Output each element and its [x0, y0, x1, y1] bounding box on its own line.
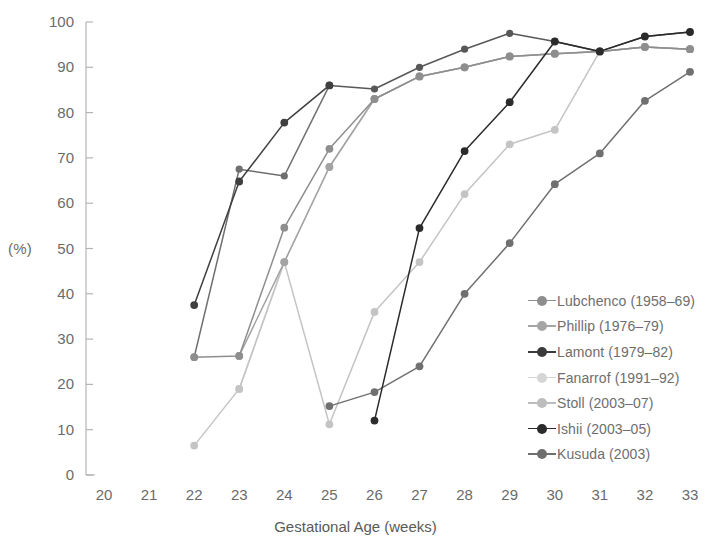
chart-container: (%) 1009080706050403020100 2021222324252… — [0, 0, 711, 550]
series-point — [416, 224, 424, 232]
series-point — [686, 45, 694, 53]
series-point — [641, 33, 649, 41]
x-tick-label: 22 — [174, 486, 214, 503]
legend-label: Lubchenco (1958–69) — [556, 293, 695, 309]
series-point — [235, 385, 243, 393]
series-point — [506, 30, 513, 37]
y-tick-label: 40 — [40, 285, 74, 302]
series-point — [326, 402, 334, 410]
series-line — [329, 32, 690, 89]
series-point — [461, 190, 469, 198]
series-point — [371, 95, 379, 103]
legend-swatch-icon — [528, 345, 556, 359]
series-point — [461, 147, 469, 155]
x-tick-label: 31 — [580, 486, 620, 503]
series-point — [371, 388, 379, 396]
legend-label: Kusuda (2003) — [556, 446, 650, 462]
x-tick-label: 21 — [129, 486, 169, 503]
y-tick-label: 60 — [40, 194, 74, 211]
series-point — [280, 224, 288, 232]
legend-swatch-icon — [528, 447, 556, 461]
series-point — [326, 145, 334, 153]
series-point — [326, 82, 334, 90]
series-point — [506, 239, 514, 247]
series-point — [506, 98, 514, 106]
legend-marker-dot — [537, 347, 547, 357]
y-tick-label: 20 — [40, 375, 74, 392]
legend-marker-dot — [537, 296, 547, 306]
series-point — [235, 178, 243, 186]
legend-marker-dot — [537, 321, 547, 331]
x-tick-label: 30 — [535, 486, 575, 503]
x-tick-label: 25 — [309, 486, 349, 503]
series-point — [461, 290, 469, 298]
legend-item: Phillip (1976–79) — [528, 314, 695, 340]
x-tick-label: 26 — [354, 486, 394, 503]
series-point — [416, 258, 424, 266]
series-point — [551, 50, 559, 58]
series-point — [326, 163, 334, 171]
x-axis-title: Gestational Age (weeks) — [0, 518, 711, 535]
series-point — [551, 180, 559, 188]
series-point — [236, 166, 243, 173]
series-point — [371, 308, 379, 316]
y-tick-label: 90 — [40, 58, 74, 75]
series-point — [641, 43, 649, 51]
series-point — [686, 28, 694, 36]
legend-swatch-icon — [528, 396, 556, 410]
x-tick-label: 27 — [400, 486, 440, 503]
series-point — [551, 38, 559, 46]
legend-item: Lamont (1979–82) — [528, 339, 695, 365]
x-tick-label: 20 — [84, 486, 124, 503]
series-point — [280, 119, 288, 127]
legend-item: Ishii (2003–05) — [528, 416, 695, 442]
series-point — [281, 172, 288, 179]
x-tick-label: 23 — [219, 486, 259, 503]
legend-swatch-icon — [528, 371, 556, 385]
series-point — [416, 64, 423, 71]
y-axis-caption: (%) — [8, 240, 32, 257]
y-tick-label: 70 — [40, 149, 74, 166]
legend-marker-dot — [537, 373, 547, 383]
series-line — [194, 85, 329, 357]
series-point — [190, 353, 198, 361]
series-point — [190, 442, 198, 450]
legend-marker-dot — [537, 398, 547, 408]
series-point — [506, 53, 514, 61]
series-point — [596, 48, 604, 56]
series-point — [190, 301, 198, 309]
series-point — [416, 362, 424, 370]
legend-label: Lamont (1979–82) — [556, 344, 673, 360]
chart-legend: Lubchenco (1958–69)Phillip (1976–79)Lamo… — [528, 288, 695, 467]
x-tick-label: 28 — [445, 486, 485, 503]
x-tick-label: 33 — [670, 486, 710, 503]
series-point — [551, 126, 559, 134]
series-point — [506, 140, 514, 148]
y-tick-label: 0 — [40, 466, 74, 483]
y-tick-label: 100 — [40, 13, 74, 30]
x-tick-label: 29 — [490, 486, 530, 503]
y-tick-label: 30 — [40, 330, 74, 347]
legend-item: Lubchenco (1958–69) — [528, 288, 695, 314]
y-tick-label: 10 — [40, 421, 74, 438]
series-point — [686, 68, 694, 76]
legend-swatch-icon — [528, 319, 556, 333]
series-point — [371, 417, 379, 425]
series-point — [326, 420, 334, 428]
series-point — [235, 352, 243, 360]
x-tick-label: 24 — [264, 486, 304, 503]
series-point — [280, 258, 288, 266]
legend-label: Fanarrof (1991–92) — [556, 370, 679, 386]
legend-label: Stoll (2003–07) — [556, 395, 653, 411]
series-point — [371, 85, 378, 92]
x-tick-label: 32 — [625, 486, 665, 503]
series-point — [641, 97, 649, 105]
legend-label: Ishii (2003–05) — [556, 421, 651, 437]
series-point — [416, 73, 424, 81]
legend-marker-dot — [537, 449, 547, 459]
legend-item: Stoll (2003–07) — [528, 390, 695, 416]
series-point — [461, 63, 469, 71]
legend-item: Fanarrof (1991–92) — [528, 365, 695, 391]
plot-area — [0, 0, 711, 550]
series-point — [461, 46, 468, 53]
